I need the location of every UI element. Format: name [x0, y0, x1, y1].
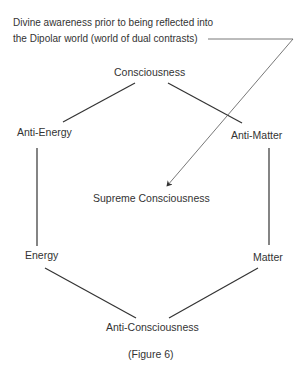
- leader-arrow: [167, 39, 293, 186]
- edge-consciousness-antienergy: [63, 83, 135, 122]
- hexagon-diagram: [0, 0, 305, 376]
- node-energy: Energy: [25, 249, 58, 261]
- node-supreme-consciousness: Supreme Consciousness: [93, 192, 210, 204]
- node-consciousness: Consciousness: [114, 66, 185, 78]
- node-anti-consciousness: Anti-Consciousness: [106, 321, 199, 333]
- edge-matter-anticonsciousness: [169, 268, 258, 318]
- node-matter: Matter: [253, 251, 283, 263]
- edge-consciousness-antimatter: [168, 83, 242, 123]
- annotation-line-1: Divine awareness prior to being reflecte…: [13, 15, 213, 31]
- edge-energy-anticonsciousness: [45, 268, 136, 318]
- annotation-text: Divine awareness prior to being reflecte…: [13, 15, 213, 47]
- node-anti-matter: Anti-Matter: [231, 129, 282, 141]
- figure-caption: (Figure 6): [128, 348, 174, 360]
- node-anti-energy: Anti-Energy: [17, 126, 72, 138]
- annotation-line-2: the Dipolar world (world of dual contras…: [13, 31, 213, 47]
